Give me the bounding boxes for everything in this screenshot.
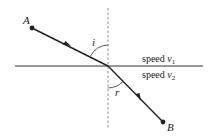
point-a-label: A (22, 14, 30, 26)
refraction-diagram: A B i r speed v1 speed v2 (0, 0, 210, 138)
speed-v1-label: speed v1 (142, 53, 176, 66)
incident-ray (32, 28, 108, 66)
point-a-dot (30, 26, 35, 31)
point-b-label: B (167, 121, 174, 133)
incident-arrow-icon (63, 41, 71, 46)
angle-r-label: r (115, 86, 120, 98)
angle-i-label: i (92, 36, 95, 48)
point-b-dot (161, 120, 166, 125)
speed-v2-label: speed v2 (142, 69, 176, 82)
refracted-arrow-icon (136, 93, 141, 101)
